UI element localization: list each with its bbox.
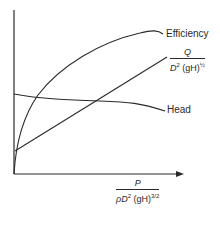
power-denominator: ρD2 (gH)3/2	[116, 191, 159, 205]
flow-numerator: Q	[184, 47, 191, 57]
efficiency-curve	[14, 31, 163, 174]
flow-denominator: D2 (gH)½	[170, 60, 205, 74]
efficiency-label: Efficiency	[166, 28, 209, 39]
x-axis-label: P ρD2 (gH)3/2	[116, 178, 159, 205]
x-axis-arrow-icon	[176, 171, 184, 177]
flow-coefficient-label: Q D2 (gH)½	[170, 47, 205, 74]
head-label: Head	[167, 104, 191, 115]
fraction-bar	[116, 189, 159, 190]
flow-coefficient-line	[15, 57, 167, 151]
power-numerator: P	[135, 178, 141, 188]
fraction-bar	[170, 58, 205, 59]
